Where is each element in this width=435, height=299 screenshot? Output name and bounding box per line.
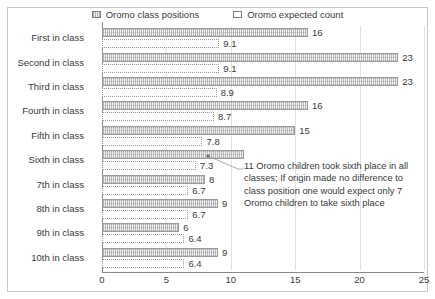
- category-label: 9th in class: [0, 227, 84, 238]
- bar-value-label: 15: [299, 125, 310, 136]
- bar-value-label: 7.3: [200, 160, 213, 171]
- bar-class-positions[interactable]: [102, 28, 308, 37]
- annotation-text: 11 Oromo children took sixth place in al…: [244, 160, 426, 209]
- bar-value-label: 8: [209, 174, 214, 185]
- bar-expected-count[interactable]: [102, 161, 196, 170]
- bar-class-positions[interactable]: [102, 126, 295, 135]
- bar-value-label: 9: [222, 247, 227, 258]
- bar-value-label: 6.7: [192, 209, 205, 220]
- bar-expected-count[interactable]: [102, 64, 219, 73]
- chart-row: Second in class239.1: [102, 50, 424, 74]
- chart-row: Third in class238.9: [102, 75, 424, 99]
- category-label: 10th in class: [0, 252, 84, 263]
- bar-value-label: 9: [222, 198, 227, 209]
- bar-value-label: 23: [402, 52, 413, 63]
- chart-container: Oromo class positionsOromo expected coun…: [0, 0, 435, 299]
- x-tick-label: 5: [164, 274, 169, 285]
- category-label: Fourth in class: [0, 105, 84, 116]
- bar-expected-count[interactable]: [102, 186, 188, 195]
- bar-value-label: 7.8: [206, 136, 219, 147]
- bar-expected-count[interactable]: [102, 210, 188, 219]
- plot-area: First in class169.1Second in class239.1T…: [102, 26, 424, 270]
- chart-row: 10th in class96.4: [102, 246, 424, 270]
- bar-class-positions[interactable]: [102, 150, 244, 159]
- bar-value-label: 6: [183, 222, 188, 233]
- chart-row: Fifth in class157.8: [102, 124, 424, 148]
- bar-value-label: 9.1: [223, 63, 236, 74]
- bar-class-positions[interactable]: [102, 199, 218, 208]
- bar-expected-count[interactable]: [102, 234, 184, 243]
- x-tick-label: 0: [99, 274, 104, 285]
- bar-value-label: 16: [312, 100, 323, 111]
- bar-value-label: 16: [312, 27, 323, 38]
- bar-value-label: 8.7: [218, 111, 231, 122]
- chart-row: Fourth in class168.7: [102, 99, 424, 123]
- bar-value-label: 23: [402, 76, 413, 87]
- bar-class-positions[interactable]: [102, 248, 218, 257]
- bar-class-positions[interactable]: [102, 77, 398, 86]
- bar-expected-count[interactable]: [102, 39, 219, 48]
- chart-row: First in class169.1: [102, 26, 424, 50]
- bar-expected-count[interactable]: [102, 112, 214, 121]
- bar-expected-count[interactable]: [102, 137, 202, 146]
- category-label: Fifth in class: [0, 130, 84, 141]
- x-tick-label: 25: [419, 274, 430, 285]
- bar-expected-count[interactable]: [102, 259, 184, 268]
- category-label: 7th in class: [0, 179, 84, 190]
- category-label: Second in class: [0, 57, 84, 68]
- bar-value-label: 6.7: [192, 185, 205, 196]
- gridline: [424, 26, 425, 270]
- x-tick-label: 10: [226, 274, 237, 285]
- bar-class-positions[interactable]: [102, 175, 205, 184]
- bar-value-label: 9.1: [223, 38, 236, 49]
- bar-value-label: 6.4: [188, 233, 201, 244]
- bar-class-positions[interactable]: [102, 223, 179, 232]
- x-tick-label: 20: [354, 274, 365, 285]
- x-axis: 0510152025: [102, 272, 424, 288]
- category-label: Third in class: [0, 81, 84, 92]
- bar-expected-count[interactable]: [102, 88, 217, 97]
- bar-value-label: 6.4: [188, 258, 201, 269]
- category-label: First in class: [0, 32, 84, 43]
- category-label: 8th in class: [0, 203, 84, 214]
- bar-value-label: 8.9: [221, 87, 234, 98]
- x-tick-label: 15: [290, 274, 301, 285]
- category-label: Sixth in class: [0, 154, 84, 165]
- bar-class-positions[interactable]: [102, 101, 308, 110]
- bar-class-positions[interactable]: [102, 53, 398, 62]
- chart-row: 9th in class66.4: [102, 221, 424, 245]
